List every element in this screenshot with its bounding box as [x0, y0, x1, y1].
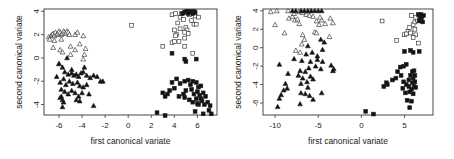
open-triangle-marker: [68, 52, 73, 56]
y-tick-label: -2: [32, 77, 41, 85]
open-square-marker: [174, 12, 178, 16]
open-triangle-marker: [299, 42, 304, 46]
filled-square-marker: [178, 82, 182, 86]
filled-square-marker: [199, 84, 203, 88]
filled-triangle-marker: [69, 67, 74, 71]
filled-square-marker: [411, 76, 415, 80]
x-tick-label: -4: [78, 121, 86, 130]
filled-triangle-marker: [310, 50, 315, 54]
filled-triangle-marker: [319, 90, 324, 94]
filled-triangle-marker: [91, 73, 96, 77]
y-tick-label: -6: [251, 99, 260, 107]
filled-square-marker: [382, 85, 386, 89]
filled-square-marker: [408, 106, 412, 110]
filled-triangle-marker: [296, 73, 301, 77]
filled-square-marker: [417, 50, 421, 54]
open-triangle-marker: [268, 9, 273, 13]
open-square-marker: [178, 27, 182, 31]
y-tick-label: 4: [32, 9, 41, 14]
y-tick-label: 4: [251, 8, 260, 13]
filled-square-marker: [405, 98, 409, 102]
x-tick-label: 2: [149, 121, 154, 130]
filled-square-marker: [193, 110, 197, 114]
x-tick-label: -10: [269, 121, 281, 130]
filled-square-marker: [364, 109, 368, 113]
filled-triangle-marker: [67, 79, 72, 83]
open-square-marker: [404, 32, 408, 36]
open-square-marker: [183, 30, 187, 34]
filled-triangle-marker: [320, 47, 325, 51]
open-triangle-marker: [330, 20, 335, 24]
filled-square-marker: [183, 96, 187, 100]
filled-triangle-marker: [277, 62, 282, 66]
open-triangle-marker: [52, 38, 57, 42]
filled-triangle-marker: [75, 80, 80, 84]
x-tick-label: 4: [172, 121, 177, 130]
filled-square-marker: [204, 94, 208, 98]
filled-triangle-marker: [329, 63, 334, 67]
open-square-marker: [395, 38, 399, 42]
filled-square-marker: [417, 19, 421, 23]
filled-square-marker: [155, 111, 159, 115]
open-triangle-marker: [318, 15, 323, 19]
filled-square-marker: [414, 85, 418, 89]
filled-square-marker: [410, 99, 414, 103]
filled-triangle-marker: [275, 104, 280, 108]
open-square-marker: [130, 23, 134, 27]
filled-square-marker: [208, 104, 212, 108]
open-square-marker: [411, 36, 415, 40]
open-triangle-marker: [83, 46, 88, 50]
x-tick-label: 0: [359, 121, 364, 130]
filled-triangle-marker: [298, 102, 303, 106]
y-tick-label: -4: [251, 80, 260, 88]
open-square-marker: [197, 15, 201, 19]
filled-triangle-marker: [305, 43, 310, 47]
y-tick-label: -2: [251, 62, 260, 70]
filled-square-marker: [404, 62, 408, 66]
open-triangle-marker: [77, 42, 82, 46]
filled-square-marker: [413, 80, 417, 84]
filled-triangle-marker: [306, 66, 311, 70]
open-triangle-marker: [81, 57, 86, 61]
open-square-marker: [194, 22, 198, 26]
open-square-marker: [191, 51, 195, 55]
filled-triangle-marker: [84, 82, 89, 86]
x-tick-label: 0: [126, 121, 131, 130]
filled-square-marker: [199, 97, 203, 101]
filled-triangle-marker: [292, 56, 297, 60]
open-triangle-marker: [328, 16, 333, 20]
filled-triangle-marker: [318, 37, 323, 41]
filled-triangle-marker: [298, 68, 303, 72]
filled-square-marker: [391, 78, 395, 82]
open-square-marker: [176, 21, 180, 25]
filled-triangle-marker: [300, 76, 305, 80]
open-square-marker: [380, 19, 384, 23]
data-points: [46, 9, 213, 117]
filled-square-marker: [401, 86, 405, 90]
open-square-marker: [413, 27, 417, 31]
filled-square-marker: [195, 101, 199, 105]
filled-triangle-marker: [57, 61, 62, 65]
open-triangle-marker: [51, 45, 56, 49]
scatter-plot-left: -6-4-20246420-2-4first canonical variate…: [0, 0, 227, 159]
filled-square-marker: [411, 50, 415, 54]
open-triangle-marker: [302, 37, 307, 41]
plot-svg-right: -10-505420-2-4-6first canonical variates…: [227, 0, 454, 159]
filled-triangle-marker: [318, 67, 323, 71]
filled-triangle-marker: [299, 58, 304, 62]
open-triangle-marker: [300, 32, 305, 36]
filled-square-marker: [190, 87, 194, 91]
filled-square-marker: [194, 80, 198, 84]
filled-square-marker: [184, 60, 188, 64]
filled-triangle-marker: [60, 104, 65, 108]
filled-triangle-marker: [87, 92, 92, 96]
open-square-marker: [172, 28, 176, 32]
filled-triangle-marker: [305, 85, 310, 89]
filled-square-marker: [191, 12, 195, 16]
filled-triangle-marker: [307, 93, 312, 97]
open-triangle-marker: [81, 33, 86, 37]
filled-square-marker: [407, 85, 411, 89]
filled-triangle-marker: [313, 64, 318, 68]
filled-square-marker: [396, 70, 400, 74]
open-triangle-marker: [75, 30, 80, 34]
